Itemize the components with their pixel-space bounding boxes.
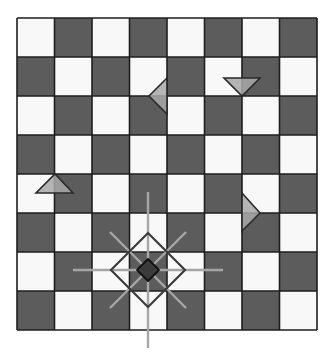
board-cell-r6-c0[interactable] xyxy=(17,252,55,291)
board-cell-r2-c5[interactable] xyxy=(205,96,243,135)
board-cell-r0-c3[interactable] xyxy=(130,18,168,57)
board-cell-r2-c1[interactable] xyxy=(55,96,93,135)
board-cell-r4-c4[interactable] xyxy=(167,174,205,213)
board-cell-r7-c5[interactable] xyxy=(205,291,243,330)
board-cell-r0-c5[interactable] xyxy=(205,18,243,57)
board-cell-r7-c2[interactable] xyxy=(92,291,130,330)
board-cell-r7-c6[interactable] xyxy=(242,291,280,330)
board-cell-r5-c5[interactable] xyxy=(205,213,243,252)
board-cell-r6-c5[interactable] xyxy=(205,252,243,291)
board-cell-r3-c7[interactable] xyxy=(280,135,318,174)
board-cell-r0-c0[interactable] xyxy=(17,18,55,57)
board-cell-r0-c1[interactable] xyxy=(55,18,93,57)
board-cell-r7-c4[interactable] xyxy=(167,291,205,330)
board-cell-r2-c4[interactable] xyxy=(167,96,205,135)
board-cell-r3-c1[interactable] xyxy=(55,135,93,174)
board-cell-r6-c7[interactable] xyxy=(280,252,318,291)
board-cell-r3-c4[interactable] xyxy=(167,135,205,174)
board-cell-r1-c4[interactable] xyxy=(167,57,205,96)
board-cell-r0-c6[interactable] xyxy=(242,18,280,57)
board-cell-r3-c3[interactable] xyxy=(130,135,168,174)
board-cell-r0-c4[interactable] xyxy=(167,18,205,57)
board-cell-r0-c2[interactable] xyxy=(92,18,130,57)
board-cell-r5-c1[interactable] xyxy=(55,213,93,252)
board-cell-r2-c0[interactable] xyxy=(17,96,55,135)
board-cell-r0-c7[interactable] xyxy=(280,18,318,57)
board-cell-r7-c7[interactable] xyxy=(280,291,318,330)
board-cell-r6-c6[interactable] xyxy=(242,252,280,291)
board-cell-r5-c7[interactable] xyxy=(280,213,318,252)
board-cell-r6-c1[interactable] xyxy=(55,252,93,291)
board-cell-r1-c2[interactable] xyxy=(92,57,130,96)
board-cell-r5-c0[interactable] xyxy=(17,213,55,252)
board-cell-r3-c2[interactable] xyxy=(92,135,130,174)
board-cell-r3-c6[interactable] xyxy=(242,135,280,174)
board-cell-r2-c2[interactable] xyxy=(92,96,130,135)
game-stage xyxy=(0,0,330,362)
board-cell-r2-c6[interactable] xyxy=(242,96,280,135)
board-cell-r4-c5[interactable] xyxy=(205,174,243,213)
board-cell-r1-c7[interactable] xyxy=(280,57,318,96)
board-cell-r4-c7[interactable] xyxy=(280,174,318,213)
board-cell-r3-c5[interactable] xyxy=(205,135,243,174)
board-cell-r7-c1[interactable] xyxy=(55,291,93,330)
board-cell-r2-c7[interactable] xyxy=(280,96,318,135)
board-cell-r7-c0[interactable] xyxy=(17,291,55,330)
board-cell-r3-c0[interactable] xyxy=(17,135,55,174)
checkerboard[interactable] xyxy=(0,0,330,362)
board-cell-r4-c2[interactable] xyxy=(92,174,130,213)
board-cell-r1-c0[interactable] xyxy=(17,57,55,96)
board-cell-r1-c1[interactable] xyxy=(55,57,93,96)
